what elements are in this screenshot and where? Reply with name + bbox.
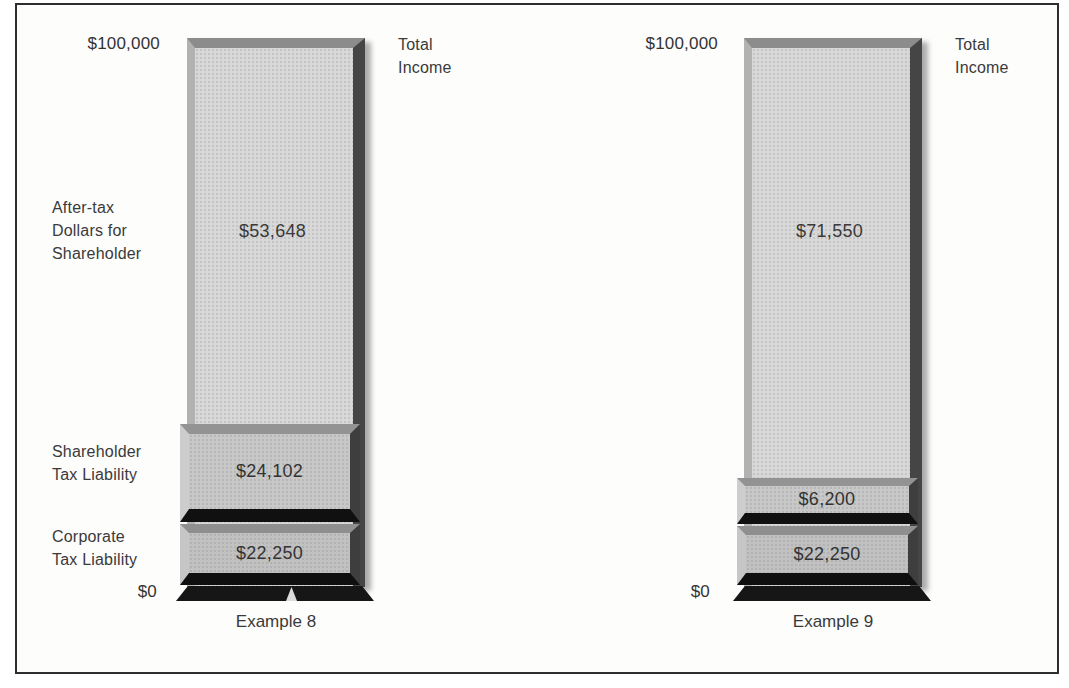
bar-base-example8 xyxy=(176,586,374,601)
bar-base-example9 xyxy=(733,586,931,601)
total-income-label-example9: Total Income xyxy=(955,33,1035,79)
axis-zero-tick-example9: $0 xyxy=(645,580,710,603)
after-tax-value-example9: $71,550 xyxy=(752,206,907,256)
corporate-tax-value-example9: $22,250 xyxy=(793,544,860,565)
figure-canvas: $100,000 Total Income After-tax Dollars … xyxy=(0,0,1069,688)
corporate-tax-block-example9: $22,250 xyxy=(737,526,918,585)
axis-zero-tick-example8: $0 xyxy=(90,580,157,603)
shareholder-tax-value-example8: $24,102 xyxy=(236,461,303,482)
total-income-line2: Income xyxy=(955,56,1035,79)
total-income-line1: Total xyxy=(955,33,1035,56)
after-tax-label: After-tax Dollars for Shareholder xyxy=(52,196,182,265)
after-tax-value-example8: $53,648 xyxy=(195,206,350,256)
corporate-tax-value-example8: $22,250 xyxy=(236,543,303,564)
total-income-line1: Total xyxy=(398,33,478,56)
shareholder-tax-label: Shareholder Tax Liability xyxy=(52,440,182,486)
corporate-tax-label: Corporate Tax Liability xyxy=(52,525,182,571)
shareholder-tax-value-example9: $6,200 xyxy=(799,489,856,510)
shareholder-tax-block-example8: $24,102 xyxy=(180,424,360,522)
total-income-label-example8: Total Income xyxy=(398,33,478,79)
axis-top-tick-example9: $100,000 xyxy=(602,32,718,55)
axis-top-tick-example8: $100,000 xyxy=(44,32,160,55)
corporate-tax-block-example8: $22,250 xyxy=(180,524,360,585)
caption-example8: Example 8 xyxy=(187,612,365,632)
total-income-line2: Income xyxy=(398,56,478,79)
caption-example9: Example 9 xyxy=(744,612,922,632)
shareholder-tax-block-example9: $6,200 xyxy=(737,478,918,524)
